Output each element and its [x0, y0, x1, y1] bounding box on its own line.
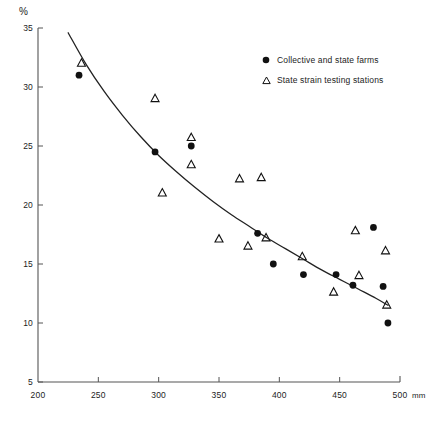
- y-tick-label-10: 10: [11, 318, 33, 328]
- data-point-circle: [385, 320, 392, 327]
- data-point-triangle: [151, 94, 159, 101]
- chart-container: % mm 5101520253035 200250300350400450500…: [0, 0, 427, 429]
- y-tick-label-20: 20: [11, 200, 33, 210]
- data-point-circle: [370, 224, 377, 231]
- filled-circle-icon: [255, 55, 277, 65]
- y-tick-label-15: 15: [11, 259, 33, 269]
- data-point-circle: [270, 261, 277, 268]
- x-tick-label-500: 500: [380, 390, 420, 400]
- data-point-triangle: [215, 235, 223, 242]
- data-point-triangle: [355, 271, 363, 278]
- y-tick-label-30: 30: [11, 82, 33, 92]
- data-point-circle: [333, 271, 340, 278]
- x-tick-label-350: 350: [199, 390, 239, 400]
- data-points: [76, 59, 392, 327]
- data-point-circle: [188, 143, 195, 150]
- data-point-circle: [350, 282, 357, 289]
- y-tick-label-25: 25: [11, 141, 33, 151]
- data-point-triangle: [187, 133, 195, 140]
- data-point-triangle: [244, 242, 252, 249]
- x-tick-label-200: 200: [18, 390, 58, 400]
- data-point-circle: [254, 230, 261, 237]
- data-point-triangle: [236, 174, 244, 181]
- legend-label-collective-and-state-farms: Collective and state farms: [277, 55, 379, 65]
- data-point-triangle: [351, 226, 359, 233]
- open-triangle-icon: [255, 75, 277, 86]
- y-tick-label-5: 5: [11, 377, 33, 387]
- legend-label-state-strain-testing-stations: State strain testing stations: [277, 75, 383, 85]
- legend-item-state-strain-testing-stations: State strain testing stations: [255, 70, 383, 90]
- y-axis-title: %: [19, 6, 28, 17]
- data-point-circle: [152, 149, 159, 156]
- data-point-triangle: [257, 173, 265, 180]
- data-point-circle: [76, 72, 83, 79]
- x-tick-label-250: 250: [78, 390, 118, 400]
- chart-legend: Collective and state farms State strain …: [255, 50, 383, 90]
- data-point-triangle: [77, 59, 85, 66]
- data-point-triangle: [158, 189, 166, 196]
- x-tick-label-450: 450: [320, 390, 360, 400]
- data-point-circle: [300, 271, 307, 278]
- y-tick-label-35: 35: [11, 23, 33, 33]
- legend-item-collective-and-state-farms: Collective and state farms: [255, 50, 383, 70]
- data-point-triangle: [330, 288, 338, 295]
- x-tick-label-300: 300: [139, 390, 179, 400]
- x-tick-label-400: 400: [259, 390, 299, 400]
- data-point-triangle: [382, 246, 390, 253]
- data-point-circle: [380, 283, 387, 290]
- data-point-triangle: [187, 160, 195, 167]
